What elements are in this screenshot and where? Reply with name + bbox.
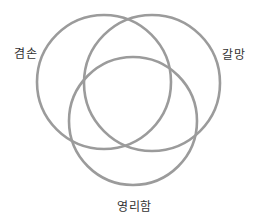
label-humility: 겸손	[14, 44, 37, 61]
venn-diagram	[0, 0, 263, 223]
label-cleverness: 영리함	[117, 197, 152, 214]
venn-circle-bottom	[69, 57, 197, 185]
label-longing: 갈망	[222, 45, 245, 62]
